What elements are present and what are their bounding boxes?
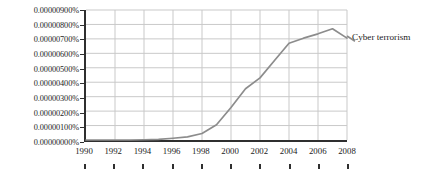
x-axis-tick-label: 1992 [104,146,122,156]
x-axis-tick-mark [230,164,232,169]
x-axis-tick-label: 1996 [163,146,181,156]
y-axis-tick-mark [80,83,84,84]
x-axis-tick-mark [347,164,349,169]
x-axis-tick-mark [142,164,144,169]
plot-area [84,10,347,142]
x-axis-labels: 1990199219941996199820002002200420062008 [84,146,347,164]
y-axis-labels: 0.00000900%0.00000800%0.00000700%0.00000… [0,10,79,142]
y-axis-tick-label: 0.00000200% [34,108,79,117]
y-axis-tick-mark [80,127,84,128]
x-axis-tick-label: 1990 [75,146,93,156]
y-axis-tick-mark [80,69,84,70]
x-axis-tick-label: 1994 [134,146,152,156]
y-axis-tick-mark [80,98,84,99]
series-line [86,29,347,140]
y-axis-tick-label: 0.00000800% [34,20,79,29]
y-axis-tick-label: 0.00000000% [34,138,79,147]
x-axis-tick-mark [84,164,86,169]
y-axis-tick-mark [80,25,84,26]
x-axis-tick-mark [201,164,203,169]
ngram-line-chart: 0.00000900%0.00000800%0.00000700%0.00000… [0,0,448,176]
x-axis-tick-label: 2000 [221,146,239,156]
x-axis-tick-label: 2006 [309,146,327,156]
x-axis-tick-label: 1998 [192,146,210,156]
y-axis-tick-label: 0.00000600% [34,50,79,59]
x-axis-tick-label: 2004 [280,146,298,156]
y-axis-tick-mark [80,142,84,143]
y-axis-tick-mark [80,10,84,11]
x-axis-tick-mark [172,164,174,169]
y-axis-tick-mark [80,113,84,114]
y-axis-tick-label: 0.00000100% [34,123,79,132]
x-axis-tick-mark [318,164,320,169]
y-axis-tick-label: 0.00000300% [34,94,79,103]
y-axis-tick-label: 0.00000500% [34,64,79,73]
y-axis-tick-label: 0.00000700% [34,35,79,44]
y-axis-tick-mark [80,39,84,40]
legend-label-cyber-terrorism: Cyber terrorism [352,32,410,42]
x-axis-tick-label: 2008 [338,146,356,156]
x-axis-tick-label: 2002 [251,146,269,156]
x-axis-tick-mark [289,164,291,169]
y-axis-tick-label: 0.00000400% [34,79,79,88]
y-axis-tick-label: 0.00000900% [34,6,79,15]
series-lines [86,10,347,140]
x-axis-tick-mark [259,164,261,169]
y-axis-tick-mark [80,54,84,55]
x-axis-tick-mark [113,164,115,169]
